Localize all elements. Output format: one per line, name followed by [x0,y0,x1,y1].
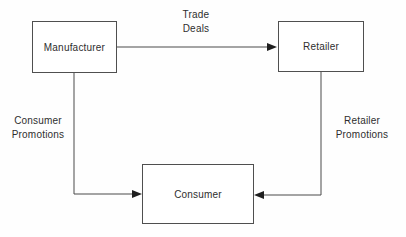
arrow-trade-deals [117,43,277,51]
promotion-flow-diagram: Manufacturer Retailer Consumer Trade Dea… [0,0,406,237]
arrow-consumer-promotions [74,73,142,198]
manufacturer-box: Manufacturer [32,21,117,73]
consumer-promotions-label-line1: Consumer [1,114,75,128]
retailer-box: Retailer [278,21,364,72]
retailer-promotions-label: Retailer Promotions [324,114,400,142]
trade-deals-label-line2: Deals [161,22,231,36]
retailer-promotions-label-line1: Retailer [324,114,400,128]
manufacturer-label: Manufacturer [44,42,105,53]
consumer-box: Consumer [142,164,254,224]
arrow-retailer-promotions [254,72,321,199]
consumer-label: Consumer [174,189,222,200]
consumer-promotions-label-line2: Promotions [1,128,75,142]
retailer-label: Retailer [303,41,339,52]
trade-deals-label: Trade Deals [161,8,231,36]
trade-deals-label-line1: Trade [161,8,231,22]
retailer-promotions-label-line2: Promotions [324,128,400,142]
consumer-promotions-label: Consumer Promotions [1,114,75,142]
